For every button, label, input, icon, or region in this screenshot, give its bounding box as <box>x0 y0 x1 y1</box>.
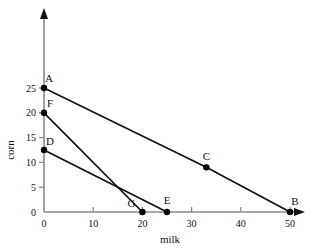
point-label-F: F <box>47 97 53 109</box>
x-tick-label: 20 <box>137 218 147 229</box>
y-tick-label: 5 <box>31 182 36 193</box>
y-axis-arrowhead <box>40 8 48 19</box>
axes-group <box>40 8 305 216</box>
data-point-D <box>41 147 47 153</box>
point-label-C: C <box>203 150 210 162</box>
y-tick-label: 15 <box>26 132 36 143</box>
point-label-G: G <box>127 197 135 209</box>
chart-canvas: 0510152025 01020304050 ACBFGDE milk corn <box>0 0 313 250</box>
point-label-D: D <box>46 135 54 147</box>
data-point-E <box>164 209 170 215</box>
x-tick-label: 50 <box>285 218 295 229</box>
y-tick-label: 0 <box>31 207 36 218</box>
y-tick-label: 25 <box>26 83 36 94</box>
series-line-de <box>44 150 167 212</box>
y-tick-label: 10 <box>26 157 36 168</box>
x-tick-label: 30 <box>187 218 197 229</box>
point-label-E: E <box>164 194 171 206</box>
x-axis-title: milk <box>160 233 181 245</box>
point-label-A: A <box>45 72 53 84</box>
y-axis-title: corn <box>4 140 16 160</box>
x-tick-label: 10 <box>88 218 98 229</box>
data-point-F <box>41 110 47 116</box>
y-tick-label: 20 <box>26 107 36 118</box>
point-label-B: B <box>291 195 298 207</box>
x-axis-arrowhead <box>294 208 305 216</box>
data-point-A <box>41 85 47 91</box>
x-tick-label: 0 <box>42 218 47 229</box>
chart-figure: 0510152025 01020304050 ACBFGDE milk corn <box>0 0 313 250</box>
x-tick-label: 40 <box>236 218 246 229</box>
data-point-B <box>287 209 293 215</box>
data-point-G <box>139 209 145 215</box>
chart-point-labels: ACBFGDE <box>45 72 299 209</box>
data-point-C <box>203 164 209 170</box>
